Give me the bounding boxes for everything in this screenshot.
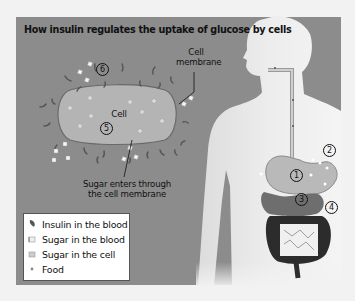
sugar-enters-line2: the cell membrane — [72, 189, 182, 199]
cell-membrane-label-line1: Cell — [176, 47, 216, 57]
legend-item-insulin: Insulin in the blood — [28, 217, 128, 231]
legend-label: Sugar in the blood — [42, 234, 125, 245]
sugar-blood-icon — [28, 234, 37, 245]
diagram-title: How insulin regulates the uptake of gluc… — [24, 24, 291, 35]
legend-item-sugar-blood: Sugar in the blood — [28, 232, 125, 246]
insulin-icon — [28, 219, 37, 230]
cell-membrane-label: Cell membrane — [176, 47, 216, 67]
legend-label: Food — [42, 264, 64, 275]
step-4-marker: 4 — [325, 201, 338, 214]
sugar-cell-icon — [28, 249, 37, 260]
sugar-enters-label: Sugar enters through the cell membrane — [72, 179, 182, 199]
legend-item-food: Food — [28, 262, 64, 276]
cell-membrane-label-line2: membrane — [176, 57, 216, 67]
legend: Insulin in the blood Sugar in the blood … — [23, 213, 130, 281]
food-icon — [28, 264, 37, 275]
step-5-marker: 5 — [100, 122, 113, 135]
legend-item-sugar-cell: Sugar in the cell — [28, 247, 115, 261]
step-6-marker: 6 — [96, 63, 109, 76]
legend-label: Insulin in the blood — [42, 219, 128, 230]
step-1-marker: 1 — [290, 169, 303, 182]
step-2-marker: 2 — [323, 144, 336, 157]
cell-label: Cell — [104, 109, 134, 119]
legend-label: Sugar in the cell — [42, 249, 115, 260]
sugar-enters-line1: Sugar enters through — [72, 179, 182, 189]
step-3-marker: 3 — [295, 193, 308, 206]
